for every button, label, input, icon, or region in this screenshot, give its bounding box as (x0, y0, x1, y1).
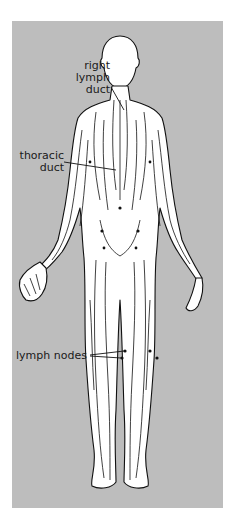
right-lymph-duct-label: right lymph duct (70, 60, 110, 96)
thoracic-duct-label: thoracic duct (14, 150, 64, 174)
hand (186, 278, 203, 311)
lymph-nodes-label: lymph nodes (16, 350, 87, 362)
lymphatic-body-figure (0, 0, 240, 518)
label-line: duct (70, 84, 110, 96)
hand (19, 262, 46, 301)
label-line: duct (14, 162, 64, 174)
